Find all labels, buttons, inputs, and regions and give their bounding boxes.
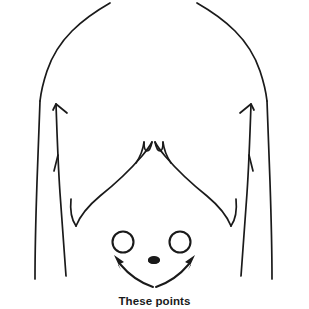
left-side-body-line [35,101,40,279]
left-costal-hook [71,199,76,226]
right-armpit-tick-icon [240,104,254,113]
left-marked-point-circle [113,232,134,253]
right-callout-arrow-shaft [156,264,189,287]
right-marked-point-circle [170,232,191,253]
left-rib-tick-mark [54,155,58,171]
xiphoid-peak-left [136,142,144,163]
left-shoulder-contour [40,3,110,101]
left-armpit-tick-icon [53,104,67,113]
left-callout-arrow-shaft [120,264,153,287]
left-inner-arm-line [56,104,66,276]
right-rib-tick-mark [249,155,253,171]
right-costal-hook [231,199,236,226]
xiphoid-peak-right [163,142,171,163]
right-inner-arm-line [241,104,251,276]
right-side-body-line [267,101,272,279]
right-shoulder-contour [197,3,267,101]
